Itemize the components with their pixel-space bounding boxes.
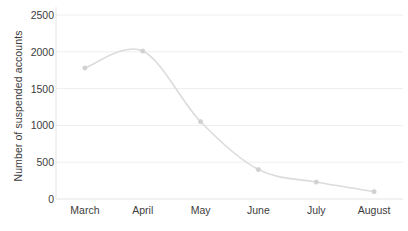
data-point-marker[interactable] [141,49,145,53]
x-tick-label: May [191,204,211,216]
x-tick-label: June [247,204,270,216]
data-line [85,49,374,192]
plot-area [0,0,408,231]
data-point-marker[interactable] [372,190,376,194]
line-chart: Number of suspended accounts 05001000150… [0,0,408,231]
x-tick-label: April [132,204,153,216]
x-tick-label: August [358,204,391,216]
x-tick-label: March [70,204,99,216]
data-point-marker[interactable] [198,120,202,124]
x-tick-label: July [307,204,326,216]
data-point-marker[interactable] [314,180,318,184]
data-point-marker[interactable] [256,167,260,171]
data-point-marker[interactable] [83,66,87,70]
